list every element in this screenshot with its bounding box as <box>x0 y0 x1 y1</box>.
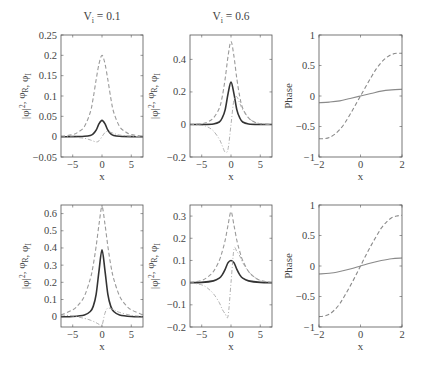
y-tick-label: −1 <box>304 322 315 333</box>
plot-area <box>61 55 143 142</box>
series-dashed <box>61 55 143 136</box>
x-tick-label: 5 <box>129 159 134 170</box>
y-tick-label: 0.1 <box>173 255 186 266</box>
y-axis-label: Phase <box>282 253 294 279</box>
y-axis-label: |φ|2, φR, φI <box>15 73 33 119</box>
series-solid-dark <box>190 82 272 124</box>
y-axis-label: |φ|2, φR, φI <box>144 73 162 119</box>
y-tick-label: 0.15 <box>39 70 57 81</box>
y-tick-label: 0.2 <box>173 86 186 97</box>
x-tick-label: −2 <box>313 329 324 340</box>
x-tick-label: 0 <box>228 329 233 340</box>
x-tick-label: 0 <box>358 159 363 170</box>
panel-top-right: −202−1−0.500.51xPhase <box>282 30 405 183</box>
y-tick-label: 0 <box>52 131 57 142</box>
panel-title: Vi = 0.1 <box>83 10 120 25</box>
x-tick-label: 5 <box>258 329 263 340</box>
y-tick-label: 0.2 <box>44 50 57 61</box>
x-tick-label: 0 <box>228 159 233 170</box>
panel-bottom-left: −50500.10.20.30.40.50.6x|φ|2, φR, φI <box>15 205 143 352</box>
series-phase-dashed <box>319 215 402 316</box>
y-tick-label: 0.5 <box>44 225 57 236</box>
series-solid-dark <box>61 120 143 136</box>
y-tick-label: −0.5 <box>296 121 315 132</box>
y-tick-label: 0.3 <box>173 211 186 222</box>
series-solid-dark <box>61 250 143 317</box>
panel-bottom-right: −202−1−0.500.51xPhase <box>282 200 405 353</box>
x-axis-label: x <box>99 170 105 182</box>
x-axis-label: x <box>228 170 234 182</box>
y-tick-label: 0 <box>181 119 186 130</box>
y-tick-label: 0.5 <box>302 230 315 241</box>
y-tick-label: 0.5 <box>302 60 315 71</box>
x-tick-label: 5 <box>129 329 134 340</box>
y-tick-label: 0 <box>310 91 315 102</box>
axes-box <box>190 205 272 327</box>
x-axis-label: x <box>228 340 234 352</box>
y-tick-label: 0.2 <box>44 277 57 288</box>
x-tick-label: −5 <box>67 159 78 170</box>
x-axis-label: x <box>358 340 364 352</box>
y-tick-label: 0.2 <box>173 233 186 244</box>
panel-top-left: −505−0.0500.050.10.150.20.25x|φ|2, φR, φ… <box>15 10 143 182</box>
plot-area <box>190 212 272 318</box>
y-tick-label: 0.1 <box>44 294 57 305</box>
axes-box <box>190 35 272 157</box>
y-tick-label: 0 <box>52 311 57 322</box>
y-axis-label: |φ|2, φR, φI <box>144 243 162 289</box>
y-tick-label: 1 <box>310 30 315 41</box>
plot-area <box>319 53 402 139</box>
panel-top-middle: −505−0.200.20.4x|φ|2, φR, φIVi = 0.6 <box>144 10 272 182</box>
x-tick-label: −2 <box>313 159 324 170</box>
y-tick-label: −0.05 <box>33 152 57 163</box>
x-axis-label: x <box>358 170 364 182</box>
y-tick-label: 0.6 <box>44 208 57 219</box>
y-axis-label: Phase <box>282 83 294 109</box>
y-tick-label: −0.1 <box>167 299 186 310</box>
panel-title: Vi = 0.6 <box>212 10 249 25</box>
y-tick-label: 0.4 <box>44 242 58 253</box>
y-tick-label: 0 <box>181 277 186 288</box>
x-axis-label: x <box>99 340 105 352</box>
y-tick-label: −0.5 <box>296 291 315 302</box>
y-tick-label: 0.25 <box>39 30 57 41</box>
figure: −505−0.0500.050.10.150.20.25x|φ|2, φR, φ… <box>0 0 422 368</box>
x-tick-label: 0 <box>99 159 104 170</box>
series-dashdot <box>61 131 143 142</box>
x-tick-label: −5 <box>67 329 78 340</box>
plot-area <box>319 215 402 316</box>
y-axis-label: |φ|2, φR, φI <box>15 243 33 289</box>
series-dashed <box>190 212 272 283</box>
y-tick-label: 0.1 <box>44 91 57 102</box>
y-tick-label: −0.2 <box>167 322 186 333</box>
y-tick-label: 0.05 <box>39 111 57 122</box>
y-tick-label: 0 <box>310 261 315 272</box>
y-tick-label: 0.4 <box>173 54 187 65</box>
x-tick-label: 2 <box>399 329 404 340</box>
x-tick-label: 0 <box>99 329 104 340</box>
x-tick-label: 0 <box>358 329 363 340</box>
panel-bottom-middle: −505−0.2−0.100.10.20.3x|φ|2, φR, φI <box>144 205 272 352</box>
y-tick-label: −0.2 <box>167 152 186 163</box>
x-tick-label: −5 <box>196 159 207 170</box>
x-tick-label: −5 <box>196 329 207 340</box>
y-tick-label: 1 <box>310 200 315 211</box>
x-tick-label: 2 <box>399 159 404 170</box>
axes-box <box>61 205 143 327</box>
x-tick-label: 5 <box>258 159 263 170</box>
plot-area <box>61 207 143 326</box>
y-tick-label: −1 <box>304 152 315 163</box>
series-phase-solid <box>319 89 402 102</box>
axes-box <box>61 35 143 157</box>
series-dashed <box>190 42 272 125</box>
y-tick-label: 0.3 <box>44 260 57 271</box>
series-dashed <box>61 207 143 315</box>
plot-area <box>190 42 272 153</box>
